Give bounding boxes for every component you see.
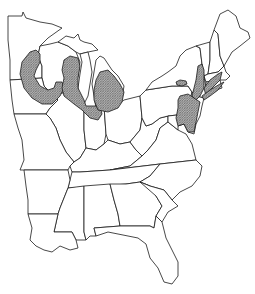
range-lower-michigan: [94, 70, 124, 112]
range-mid-atlantic: [176, 94, 200, 132]
eastern-us-map: [0, 0, 255, 294]
states-layer: [8, 10, 250, 284]
distribution-map: Outline map of the eastern United States…: [0, 0, 255, 294]
